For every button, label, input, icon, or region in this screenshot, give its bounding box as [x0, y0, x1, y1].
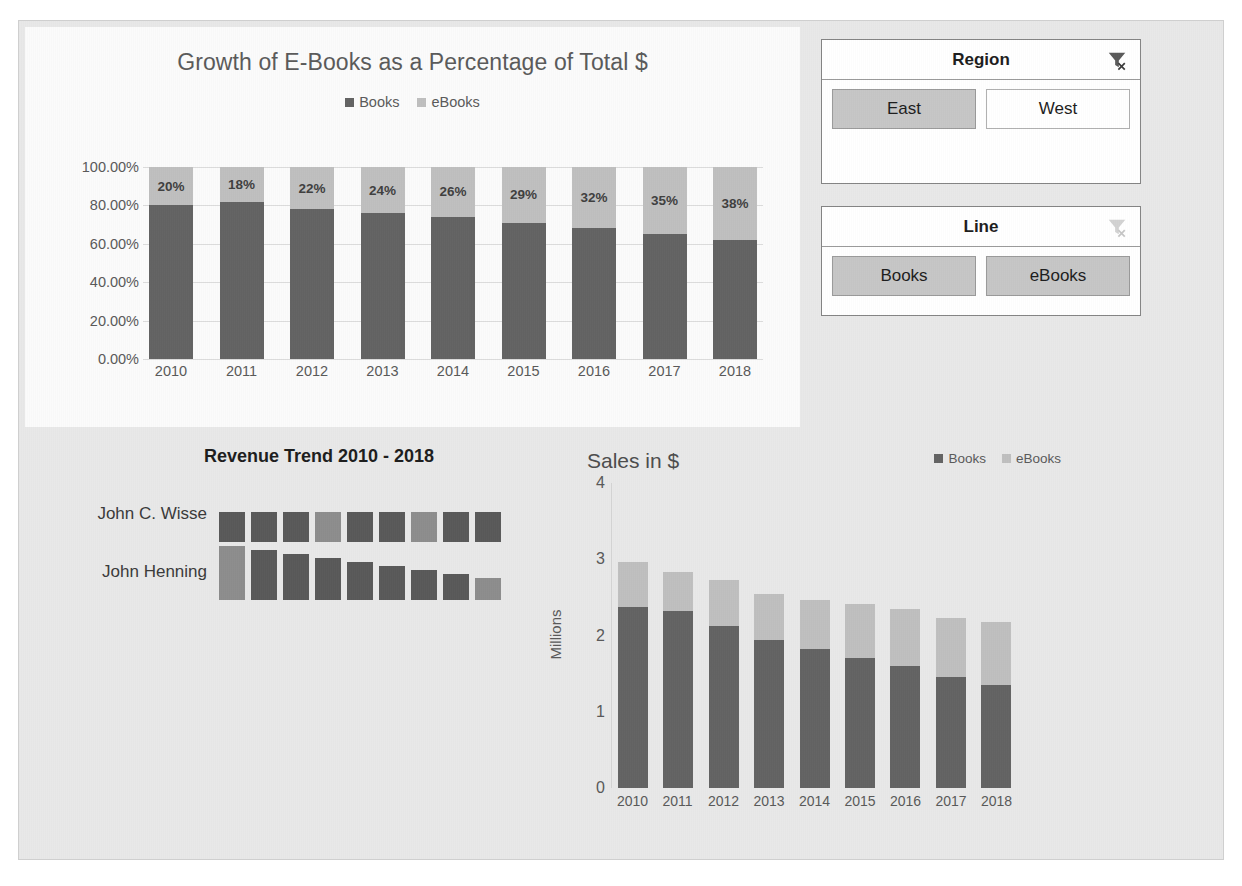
- sales-chart-x-axis: 2010 2011 2012 2013 2014 2015 2016 2017 …: [611, 793, 1011, 809]
- list-item: John C. Wisse: [59, 485, 539, 543]
- bar-segment-ebooks: 18%: [220, 167, 264, 202]
- x-tick: 2013: [361, 363, 405, 379]
- bar-segment-ebooks: 20%: [149, 167, 193, 205]
- bar-segment-ebooks: [754, 594, 784, 641]
- x-tick: 2013: [754, 793, 784, 809]
- bar-segment-books: [663, 611, 693, 788]
- spark-bar: [347, 562, 373, 600]
- x-tick: 2016: [572, 363, 616, 379]
- table-row: [618, 562, 648, 789]
- legend-label-books: Books: [359, 94, 399, 110]
- sparkline-row-label: John C. Wisse: [59, 504, 219, 524]
- legend-label-ebooks: eBooks: [431, 94, 479, 110]
- bar-segment-books: [149, 205, 193, 359]
- spark-bar: [411, 570, 437, 600]
- sparkline-title: Revenue Trend 2010 - 2018: [204, 446, 539, 467]
- spark-bar: [251, 512, 277, 542]
- x-tick: 2017: [643, 363, 687, 379]
- bar-segment-books: [361, 213, 405, 359]
- legend-swatch-ebooks: [417, 98, 426, 107]
- slicer-line-body: Books eBooks: [822, 247, 1140, 305]
- spark-bar: [219, 546, 245, 600]
- x-tick: 2015: [502, 363, 546, 379]
- bar-segment-books: [845, 658, 875, 788]
- slicer-region-title: Region: [952, 50, 1010, 70]
- bar-segment-ebooks: [709, 580, 739, 626]
- table-row: [709, 580, 739, 788]
- x-tick: 2018: [713, 363, 757, 379]
- spark-bar: [443, 574, 469, 600]
- bar-segment-books: [890, 666, 920, 788]
- table-row: 38%: [713, 167, 757, 359]
- table-row: 35%: [643, 167, 687, 359]
- pct-chart-legend: Books eBooks: [25, 94, 800, 110]
- sales-chart-bars: [612, 483, 1011, 788]
- slicer-item-east[interactable]: East: [832, 89, 976, 129]
- pct-chart-bars: 20% 18% 22% 24% 26%: [143, 167, 763, 359]
- y-tick-2: 2: [596, 627, 605, 645]
- bar-segment-books: [618, 607, 648, 789]
- table-row: 24%: [361, 167, 405, 359]
- bar-segment-ebooks: [890, 609, 920, 666]
- bar-segment-ebooks: [845, 604, 875, 657]
- list-item: John Henning: [59, 543, 539, 601]
- sparkline-cells-henning[interactable]: [219, 544, 501, 600]
- spark-bar: [411, 512, 437, 542]
- y-tick-80: 80.00%: [90, 197, 139, 213]
- bar-segment-books: [981, 685, 1011, 788]
- legend-label-books: Books: [948, 451, 986, 466]
- sales-chart-plot-area: [611, 483, 1011, 788]
- x-tick: 2010: [617, 793, 647, 809]
- spark-bar: [251, 550, 277, 600]
- y-tick-100: 100.00%: [82, 159, 139, 175]
- legend-label-ebooks: eBooks: [1016, 451, 1061, 466]
- bar-segment-books: [936, 677, 966, 788]
- x-tick: 2016: [890, 793, 920, 809]
- y-tick-40: 40.00%: [90, 274, 139, 290]
- bar-segment-ebooks: [800, 600, 830, 649]
- slicer-line-title: Line: [964, 217, 999, 237]
- bar-segment-ebooks: [663, 572, 693, 611]
- bar-segment-ebooks: 22%: [290, 167, 334, 209]
- x-tick: 2014: [431, 363, 475, 379]
- slicer-region-header: Region: [822, 40, 1140, 80]
- spark-bar: [443, 512, 469, 542]
- sparkline-row-label: John Henning: [59, 562, 219, 582]
- legend-item-ebooks: eBooks: [417, 94, 479, 110]
- clear-filter-icon[interactable]: [1106, 216, 1128, 238]
- gridline-0: [143, 359, 763, 360]
- table-row: 20%: [149, 167, 193, 359]
- table-row: 26%: [431, 167, 475, 359]
- y-tick-1: 1: [596, 703, 605, 721]
- spark-bar: [379, 566, 405, 600]
- scanned-page: Growth of E-Books as a Percentage of Tot…: [18, 20, 1224, 860]
- slicer-region-body: East West: [822, 80, 1140, 138]
- x-tick: 2015: [845, 793, 875, 809]
- slicer-item-books[interactable]: Books: [832, 256, 976, 296]
- legend-swatch-ebooks: [1002, 454, 1011, 463]
- sales-chart-legend: Books eBooks: [934, 451, 1061, 466]
- bar-segment-ebooks: [981, 622, 1011, 685]
- spark-bar: [315, 558, 341, 600]
- percentage-chart-card: Growth of E-Books as a Percentage of Tot…: [25, 27, 800, 427]
- slicer-item-ebooks[interactable]: eBooks: [986, 256, 1130, 296]
- spark-bar: [283, 554, 309, 600]
- spark-bar: [379, 512, 405, 542]
- legend-item-books: Books: [345, 94, 399, 110]
- slicer-item-west[interactable]: West: [986, 89, 1130, 129]
- bar-segment-books: [643, 234, 687, 359]
- spark-bar: [219, 512, 245, 542]
- y-tick-0: 0: [596, 779, 605, 797]
- table-row: 29%: [502, 167, 546, 359]
- y-tick-0: 0.00%: [98, 351, 139, 367]
- slicer-region: Region East West: [821, 39, 1141, 184]
- bar-segment-books: [800, 649, 830, 789]
- spark-bar: [347, 512, 373, 542]
- clear-filter-icon[interactable]: [1106, 49, 1128, 71]
- bar-segment-ebooks: 29%: [502, 167, 546, 223]
- bar-segment-books: [754, 640, 784, 788]
- x-tick: 2011: [220, 363, 264, 379]
- spark-bar: [475, 578, 501, 600]
- sparkline-cells-wisse[interactable]: [219, 486, 501, 542]
- bar-segment-ebooks: 35%: [643, 167, 687, 234]
